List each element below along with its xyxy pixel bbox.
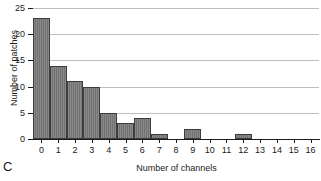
bar	[50, 66, 67, 139]
bar	[117, 123, 134, 139]
bar	[134, 118, 151, 139]
bar	[184, 129, 201, 139]
x-tick-mark	[311, 139, 312, 143]
x-tick-mark	[92, 139, 93, 143]
x-tick-mark	[260, 139, 261, 143]
x-tick-mark	[210, 139, 211, 143]
x-tick-mark	[294, 139, 295, 143]
figure-panel-c: Number of patches 0510152025 01234567891…	[0, 0, 321, 181]
x-tick-mark	[226, 139, 227, 143]
bar-series	[33, 8, 319, 139]
bar	[83, 87, 100, 139]
x-axis-title: Number of channels	[33, 163, 320, 173]
bar	[100, 113, 117, 139]
x-tick-mark	[75, 139, 76, 143]
x-tick-mark	[126, 139, 127, 143]
y-tick-label: 25	[0, 4, 25, 13]
x-tick-mark	[176, 139, 177, 143]
plot-area	[33, 8, 319, 139]
bar	[33, 18, 50, 139]
y-tick-label: 5	[0, 109, 25, 118]
x-tick-mark	[243, 139, 244, 143]
x-tick-label: 16	[301, 145, 321, 155]
y-tick-label: 15	[0, 56, 25, 65]
y-tick-label: 10	[0, 83, 25, 92]
x-tick-mark	[58, 139, 59, 143]
x-tick-mark	[109, 139, 110, 143]
panel-letter: C	[3, 160, 12, 174]
x-tick-mark	[159, 139, 160, 143]
x-tick-mark	[277, 139, 278, 143]
x-tick-mark	[193, 139, 194, 143]
x-tick-mark	[142, 139, 143, 143]
x-tick-mark	[41, 139, 42, 143]
y-tick-label: 0	[0, 135, 25, 144]
bar	[67, 81, 84, 139]
y-tick-label: 20	[0, 30, 25, 39]
